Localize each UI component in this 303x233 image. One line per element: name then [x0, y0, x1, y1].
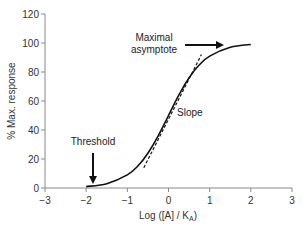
response-curve [86, 45, 251, 187]
x-tick-label: −1 [122, 195, 134, 206]
svg-text:Slope: Slope [177, 107, 203, 118]
concentration-response-chart: 020406080100120 −3−2−10123 % Max. respon… [0, 0, 303, 233]
x-axis: −3−2−10123 [39, 188, 295, 206]
y-tick-label: 60 [28, 96, 40, 107]
x-tick-label: 3 [289, 195, 295, 206]
y-tick-label: 100 [22, 38, 39, 49]
x-tick-label: 2 [248, 195, 254, 206]
y-tick-label: 0 [33, 183, 39, 194]
y-tick-label: 20 [28, 154, 40, 165]
y-tick-label: 80 [28, 67, 40, 78]
y-axis-title: % Max. response [6, 62, 17, 140]
x-axis-title: Log ([A] / KA) [139, 210, 197, 222]
x-tick-label: 1 [207, 195, 213, 206]
y-axis: 020406080100120 [22, 9, 45, 194]
svg-text:Maximal: Maximal [135, 32, 172, 43]
y-tick-label: 40 [28, 125, 40, 136]
x-tick-label: 0 [166, 195, 172, 206]
y-tick-label: 120 [22, 9, 39, 20]
x-tick-label: −2 [80, 195, 92, 206]
svg-text:Threshold: Threshold [71, 136, 115, 147]
x-tick-label: −3 [39, 195, 51, 206]
annotation-slope: Slope [177, 107, 203, 118]
annotation-threshold: Threshold [71, 136, 115, 182]
annotation-maximal-asymptote: Maximal asymptote [131, 32, 222, 55]
svg-text:asymptote: asymptote [131, 44, 178, 55]
